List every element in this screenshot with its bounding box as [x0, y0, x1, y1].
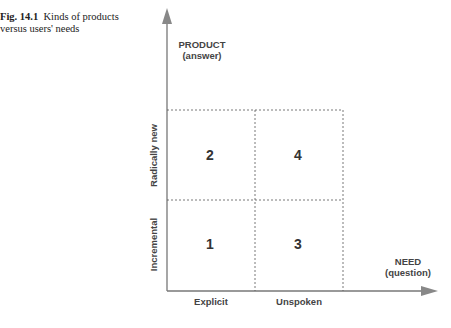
y-category-incremental: Incremental [148, 205, 159, 285]
x-axis-title-text: NEED [378, 256, 438, 267]
y-category-radically-new: Radically new [148, 116, 159, 196]
quadrant-3: 3 [294, 236, 302, 252]
quadrant-1: 1 [206, 236, 214, 252]
y-axis-title: PRODUCT (answer) [172, 39, 232, 61]
x-axis-title: NEED (question) [378, 256, 438, 278]
x-axis-arrow-icon [421, 286, 438, 296]
y-axis-arrow-icon [162, 8, 172, 24]
x-category-explicit: Explicit [171, 296, 251, 307]
x-category-unspoken: Unspoken [259, 296, 339, 307]
y-axis-title-text: PRODUCT [172, 39, 232, 50]
quadrant-2: 2 [206, 147, 214, 163]
y-axis-subtitle: (answer) [172, 50, 232, 61]
quadrant-grid [167, 110, 343, 291]
x-axis-subtitle: (question) [378, 267, 438, 278]
quadrant-4: 4 [294, 147, 302, 163]
